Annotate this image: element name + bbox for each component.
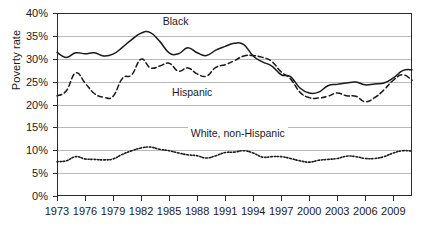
series-label-black: Black xyxy=(160,15,192,27)
poverty-rate-line-chart: Poverty rate 40%35%30%25%20%15%10%5%0% 1… xyxy=(0,0,425,238)
gridline xyxy=(58,150,411,151)
x-axis-tick-mark xyxy=(225,196,226,201)
x-axis-tick-mark xyxy=(113,196,114,201)
y-axis-tick-label: 35% xyxy=(12,31,48,41)
x-axis-tick-mark xyxy=(253,196,254,201)
x-axis-tick-mark xyxy=(393,196,394,201)
y-axis-tick-label: 5% xyxy=(12,168,48,178)
y-axis-tick-label: 20% xyxy=(12,100,48,110)
x-axis-tick-mark xyxy=(309,196,310,201)
gridline xyxy=(58,36,411,37)
series-label-hispanic: Hispanic xyxy=(169,86,215,98)
x-axis-tick-mark xyxy=(365,196,366,201)
gridline xyxy=(58,105,411,106)
y-axis-tick-label: 30% xyxy=(12,54,48,64)
x-axis-tick-mark xyxy=(57,196,58,201)
y-axis-tick-label: 40% xyxy=(12,8,48,18)
x-axis-tick-mark xyxy=(169,196,170,201)
gridline xyxy=(58,59,411,60)
plot-area xyxy=(57,13,412,196)
y-axis-tick-label: 10% xyxy=(12,145,48,155)
x-axis-tick-mark xyxy=(281,196,282,201)
gridline xyxy=(58,82,411,83)
x-axis-tick-mark xyxy=(337,196,338,201)
y-axis-tick-label: 0% xyxy=(12,191,48,201)
x-axis-tick-mark xyxy=(197,196,198,201)
x-axis-tick-label: 2009 xyxy=(373,205,413,217)
y-axis-tick-label: 25% xyxy=(12,77,48,87)
series-label-white-non-hispanic: White, non-Hispanic xyxy=(188,127,288,139)
x-axis-tick-mark xyxy=(141,196,142,201)
y-axis-tick-label: 15% xyxy=(12,122,48,132)
x-axis-tick-mark xyxy=(85,196,86,201)
gridline xyxy=(58,173,411,174)
